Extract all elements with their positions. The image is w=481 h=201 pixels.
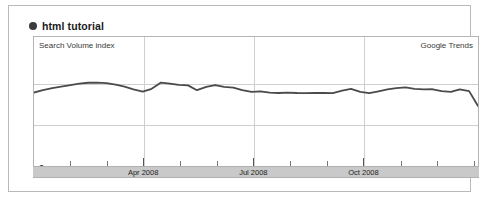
axis-tick-minor-0 bbox=[70, 161, 71, 166]
axis-tick-minor-8 bbox=[474, 161, 475, 166]
axis-tick-minor-7 bbox=[437, 161, 438, 166]
month-label-0: Apr 2008 bbox=[128, 168, 158, 178]
month-label-1: Jul 2008 bbox=[239, 168, 267, 178]
axis-tick-minor-4 bbox=[290, 161, 291, 166]
y-axis-label: Search Volume index bbox=[39, 41, 115, 51]
axis-tick-minor-5 bbox=[327, 161, 328, 166]
chart-title-row: html tutorial bbox=[29, 20, 104, 32]
axis-tick-major-0 bbox=[143, 158, 144, 166]
axis-tick-minor-2 bbox=[180, 161, 181, 166]
trends-chart-card: html tutorial Search Volume index Google… bbox=[8, 5, 471, 192]
legend-dot-icon bbox=[29, 22, 37, 30]
axis-tick-minor-3 bbox=[217, 161, 218, 166]
brand-label: Google Trends bbox=[421, 41, 473, 51]
month-axis-strip: Apr 2008Jul 2008Oct 2008 bbox=[33, 166, 479, 178]
axis-tick-major-1 bbox=[253, 158, 254, 166]
axis-tick-minor-6 bbox=[401, 161, 402, 166]
screenshot-root: html tutorial Search Volume index Google… bbox=[0, 0, 481, 201]
axis-tick-minor-1 bbox=[107, 161, 108, 166]
series-line-chart bbox=[34, 37, 478, 177]
series-polyline bbox=[34, 83, 478, 107]
axis-tick-major-2 bbox=[363, 158, 364, 166]
page-title: html tutorial bbox=[42, 20, 104, 32]
month-label-2: Oct 2008 bbox=[348, 168, 378, 178]
chart-plot-area: Search Volume index Google Trends 0 bbox=[33, 36, 479, 178]
chart-plot-inner: Search Volume index Google Trends 0 bbox=[34, 37, 478, 177]
